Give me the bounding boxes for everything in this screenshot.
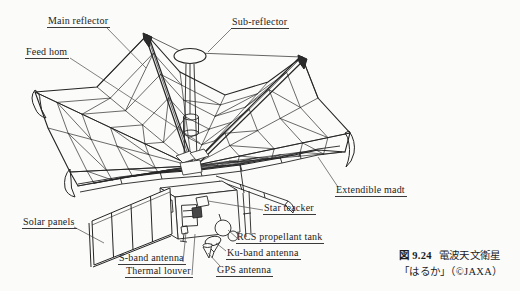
label-main-reflector: Main reflector	[47, 15, 110, 28]
label-solar-panels: Solar panels	[22, 216, 77, 229]
label-thermal-louver: Thermal louver	[125, 265, 193, 278]
caption-title: 電波天文衛星	[439, 250, 501, 261]
label-sub-reflector: Sub-reflector	[231, 16, 289, 29]
leader-sub-reflector	[208, 28, 232, 52]
leader-main-reflector	[106, 27, 146, 68]
label-extendible-mast: Extendible madt	[335, 184, 407, 197]
label-ku-band-antenna: Ku-band antenna	[226, 247, 301, 260]
caption-line-1: 図 9.24電波天文衛星	[399, 248, 502, 264]
caption-line-2: 「はるか」（©JAXA）	[399, 264, 502, 280]
figure-caption: 図 9.24電波天文衛星 「はるか」（©JAXA）	[399, 248, 502, 279]
star-tracker-box	[196, 196, 209, 207]
mast-and-sub-reflector	[174, 49, 206, 161]
label-rcs-propellant-tank: RCS propellant tank	[236, 231, 324, 244]
rim-struts	[240, 165, 251, 237]
figure-number: 図 9.24	[399, 250, 432, 261]
label-feed-horn: Feed hom	[25, 46, 69, 59]
figure-canvas: Main reflector Sub-reflector Feed hom So…	[0, 0, 520, 291]
leader-feed-horn	[70, 58, 200, 143]
label-s-band-antenna: S-band antenna	[118, 252, 186, 265]
sub-reflector-dish	[174, 49, 206, 64]
label-gps-antenna: GPS antenna	[216, 264, 273, 277]
leader-extendible-mast	[318, 157, 338, 187]
label-star-tracker: Star teacker	[263, 202, 316, 215]
